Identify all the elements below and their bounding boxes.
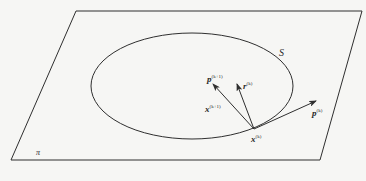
vector-p-k-sup: (k) [317, 108, 323, 113]
vector-p-k-plus-1-sup: (k+1) [212, 74, 223, 79]
vector-p-k-plus-1-label: p(k+1) [206, 74, 223, 84]
surface-s-label: S [279, 47, 284, 58]
point-x-k-sup: (k) [256, 134, 262, 139]
point-x-k-plus-1-label: x(k+1) [204, 104, 221, 114]
plane-pi-label: π [36, 148, 41, 157]
surface-s-ellipse [91, 33, 293, 139]
point-x-k-plus-1-sup: (k+1) [210, 104, 221, 109]
vector-p-k-arrow [254, 101, 316, 129]
vector-r-k-label: r(k) [243, 81, 253, 91]
diagram-canvas: S p(k+1) r(k) x(k+1) p(k) x(k) π [0, 0, 366, 181]
vector-r-k-sup: (k) [247, 81, 253, 86]
vector-p-k-label: p(k) [311, 108, 323, 118]
point-x-k-label: x(k) [250, 134, 262, 144]
